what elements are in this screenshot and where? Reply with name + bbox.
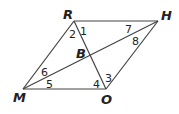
angle-label-8: 8	[132, 35, 139, 48]
angle-label-4: 4	[93, 78, 100, 91]
angle-label-5: 5	[46, 78, 53, 91]
vertex-label-h: H	[161, 8, 172, 23]
vertex-label-m: M	[13, 90, 26, 105]
parallelogram-diagram: R H M O B 1 2 3 4 5 6 7 8	[0, 0, 179, 114]
vertex-label-o: O	[101, 92, 112, 107]
vertex-label-b: B	[76, 46, 86, 61]
vertex-label-r: R	[63, 7, 73, 22]
angle-label-3: 3	[105, 72, 112, 85]
segment-ho	[106, 21, 158, 89]
angle-label-1: 1	[80, 25, 87, 38]
angle-label-6: 6	[41, 66, 48, 79]
angle-label-2: 2	[69, 28, 76, 41]
angle-label-7: 7	[125, 23, 132, 36]
